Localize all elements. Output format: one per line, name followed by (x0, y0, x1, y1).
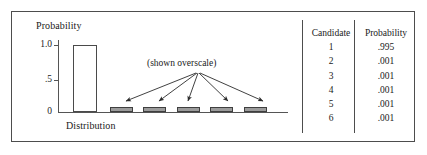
table-header-candidate: Candidate (306, 26, 356, 40)
table-cell-probability-1: .995 (358, 40, 414, 54)
arrow-to-bar-3 (159, 73, 197, 101)
arrow-to-bar-2 (126, 73, 196, 101)
arrow-to-bar-6 (200, 73, 263, 101)
arrow-to-bar-4 (188, 73, 198, 101)
table-cell-candidate-3: 3 (306, 69, 356, 83)
table-cell-candidate-6: 6 (306, 111, 356, 125)
arrow-to-bar-5 (199, 73, 228, 101)
figure-container: Probability 1.0 .5 0 (shown overscale) (0, 0, 427, 155)
table-cell-candidate-2: 2 (306, 54, 356, 68)
table-cell-probability-6: .001 (358, 111, 414, 125)
table-cell-candidate-1: 1 (306, 40, 356, 54)
bar-chart-panel: Probability 1.0 .5 0 (shown overscale) (0, 0, 290, 155)
table-cell-candidate-5: 5 (306, 97, 356, 111)
table-cell-probability-2: .001 (358, 54, 414, 68)
table-header-probability: Probability (358, 26, 414, 40)
table-column-probability: Probability .995 .001 .001 .001 .001 .00… (358, 26, 414, 125)
table-cell-candidate-4: 4 (306, 83, 356, 97)
candidate-probability-table: Candidate 1 2 3 4 5 6 Probability .995 .… (302, 26, 415, 136)
x-axis-title: Distribution (66, 120, 116, 131)
overscale-arrow-group (0, 0, 290, 155)
table-cell-probability-3: .001 (358, 69, 414, 83)
table-cell-probability-4: .001 (358, 83, 414, 97)
table-column-candidate: Candidate 1 2 3 4 5 6 (306, 26, 356, 125)
table-cell-probability-5: .001 (358, 97, 414, 111)
